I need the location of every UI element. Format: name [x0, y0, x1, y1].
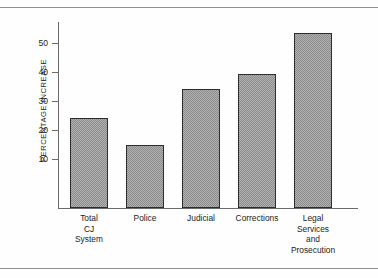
- x-axis-line: [58, 208, 358, 209]
- bar-total-cj-system: [70, 118, 108, 208]
- x-label-line: Prosecution: [281, 245, 345, 256]
- y-tick-label-10: 10: [26, 155, 48, 164]
- x-label-line: CJ: [59, 224, 119, 235]
- y-tick-50: [52, 43, 59, 44]
- bar-legal-services-and-prosecution: [294, 33, 332, 208]
- x-label-legal-services-and-prosecution: Legal Services and Prosecution: [281, 213, 345, 255]
- x-label-corrections: Corrections: [225, 213, 289, 224]
- x-label-line: Police: [115, 213, 175, 224]
- y-tick-label-50: 50: [26, 39, 48, 48]
- x-label-line: Services: [281, 224, 345, 235]
- y-tick-20: [52, 130, 59, 131]
- x-label-total-cj-system: Total CJ System: [59, 213, 119, 245]
- figure-page: PERCENTAGE INCREASE 50 40 30 20 10 Total…: [0, 0, 378, 278]
- bar-chart: PERCENTAGE INCREASE 50 40 30 20 10 Total…: [0, 10, 378, 266]
- x-label-line: Judicial: [171, 213, 231, 224]
- y-axis-line: [58, 22, 59, 209]
- bar-corrections: [238, 74, 276, 208]
- y-tick-label-30: 30: [26, 97, 48, 106]
- x-label-police: Police: [115, 213, 175, 224]
- x-label-judicial: Judicial: [171, 213, 231, 224]
- top-rule: [0, 7, 378, 8]
- y-tick-30: [52, 101, 59, 102]
- x-label-line: and: [281, 234, 345, 245]
- x-label-line: Corrections: [225, 213, 289, 224]
- y-axis-title: PERCENTAGE INCREASE: [39, 31, 48, 191]
- x-label-line: Total: [59, 213, 119, 224]
- x-label-line: System: [59, 234, 119, 245]
- y-tick-10: [52, 159, 59, 160]
- y-tick-label-40: 40: [26, 68, 48, 77]
- y-tick-label-20: 20: [26, 126, 48, 135]
- bar-police: [126, 145, 164, 208]
- bottom-rule: [0, 268, 378, 269]
- y-tick-40: [52, 72, 59, 73]
- x-label-line: Legal: [281, 213, 345, 224]
- bar-judicial: [182, 89, 220, 208]
